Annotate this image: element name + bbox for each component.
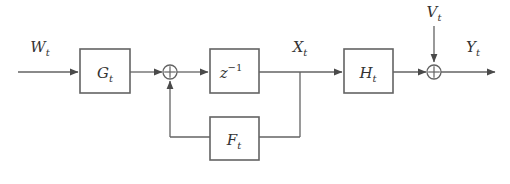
sum-node-left[interactable] <box>163 65 177 79</box>
signal-label-noise-v: Vt <box>427 3 443 23</box>
signal-label-output-y: Yt <box>466 38 481 58</box>
block-diagram-canvas: Gt z−1 Ft Ht Wt Xt Vt Yt G_t z^-1 F_t H_… <box>0 0 510 184</box>
sum-node-right[interactable] <box>427 65 441 79</box>
diagram-svg: Gt z−1 Ft Ht Wt Xt Vt Yt <box>0 0 510 184</box>
signal-label-input-w: Wt <box>30 38 50 58</box>
signal-label-state-x: Xt <box>292 38 309 58</box>
